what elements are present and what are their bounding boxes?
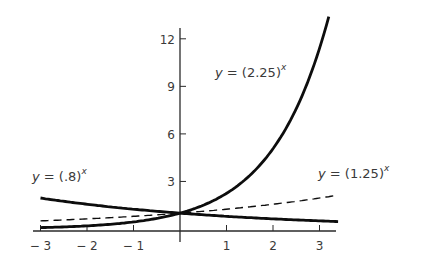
y-tick-label: 3 [167,175,175,189]
curves [41,17,339,228]
curve-labels: y = (2.25)x y = (1.25)x y = (.8)x [31,62,390,184]
curve-label-1-25: y = (1.25)x [317,163,390,181]
y-tick-label: 9 [167,80,175,94]
curve-label-2-25: y = (2.25)x [214,62,287,80]
x-tick-label: 2 [269,239,277,253]
x-tick-label: − 1 [123,239,145,253]
x-tick-label: 3 [316,239,324,253]
curve-2-25 [41,17,329,228]
y-ticks: 36912 [160,33,186,190]
curve-1-25 [41,196,334,221]
x-tick-label: 1 [223,239,231,253]
exponential-functions-chart: − 3− 2− 1123 36912 y = (2.25)x y = (1.25… [0,0,429,263]
y-tick-label: 6 [167,128,175,142]
y-tick-label: 12 [160,33,175,47]
x-tick-label: − 3 [30,239,52,253]
curve-label-0-8: y = (.8)x [31,166,87,184]
x-ticks: − 3− 2− 1123 [30,225,324,253]
x-tick-label: − 2 [76,239,98,253]
